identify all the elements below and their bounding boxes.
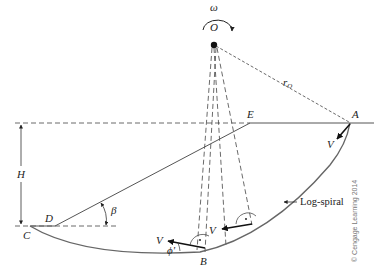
radius-rO-label: rO [283,76,292,90]
point-E-label: E [246,108,254,120]
phi-label: ϕ' [167,244,176,256]
velocity-mid-label: V [209,224,217,236]
point-C-label: C [23,229,31,241]
friction-angle-phi-arc [178,243,180,251]
omega-label: ω [210,1,218,13]
velocity-vector-mid [222,224,252,229]
copyright-text: © Cengage Learning 2014 [351,180,359,262]
height-H-label: H [16,168,26,180]
point-O-label: O [210,21,218,33]
point-B-label: B [200,255,207,267]
rotation-omega-indicator: ω O [203,1,232,33]
point-A-label: A [351,108,359,120]
point-D-label: D [44,212,53,224]
log-spiral-curve [30,123,350,253]
velocity-A-label: V [327,138,335,150]
slope-face-line [55,123,250,226]
log-spiral-slope-diagram: ω O rO H β E A D C B V V [0,0,374,275]
beta-label: β [110,204,117,216]
center-point-O [211,42,217,48]
height-H-dimension: H [14,125,28,224]
velocity-B-label: V [156,234,164,246]
radial-dashed-lines [197,48,252,252]
log-spiral-label: Log-spiral [300,196,344,207]
slope-angle-beta: β [101,203,117,225]
